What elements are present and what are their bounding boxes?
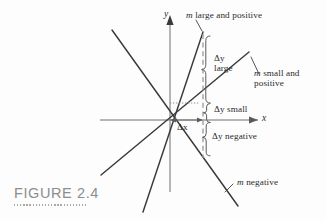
label-delta-y-large: Δylarge xyxy=(214,53,233,74)
label-m-small-positive-line1: small and xyxy=(263,68,299,78)
line-m-large-positive xyxy=(143,32,203,212)
label-m-negative: m negative xyxy=(237,177,278,187)
brace-delta-y-negative xyxy=(203,123,210,156)
figure-caption: FIGURE 2.4 xyxy=(14,186,99,201)
label-delta-y-negative: Δy negative xyxy=(212,131,257,141)
leader-m-negative xyxy=(225,184,233,192)
caption-dotted-rule xyxy=(14,204,86,206)
label-m-negative-text: negative xyxy=(246,177,278,187)
x-axis-arrowhead xyxy=(249,117,258,124)
label-m-large-positive-text: large and positive xyxy=(195,10,262,20)
delta-x-right-arrowhead xyxy=(197,118,203,123)
label-m-large-positive: m large and positive xyxy=(186,10,262,20)
label-m-small-positive: m small andpositive xyxy=(254,68,310,89)
y-axis-label: y xyxy=(164,9,168,19)
x-axis-label: x xyxy=(262,113,266,123)
label-delta-y-large-line2: large xyxy=(214,63,233,73)
label-m-small-positive-line2: positive xyxy=(254,78,284,88)
figure-caption-block: FIGURE 2.4 xyxy=(14,186,99,206)
label-delta-y-large-line1: Δy xyxy=(214,53,225,63)
leader-m-large-positive xyxy=(196,20,202,31)
figure-container: y x m large and positive m small andposi… xyxy=(0,0,326,220)
guides-group xyxy=(170,34,203,158)
label-delta-x: Δx xyxy=(177,122,188,132)
label-delta-y-small: Δy small xyxy=(214,104,248,114)
